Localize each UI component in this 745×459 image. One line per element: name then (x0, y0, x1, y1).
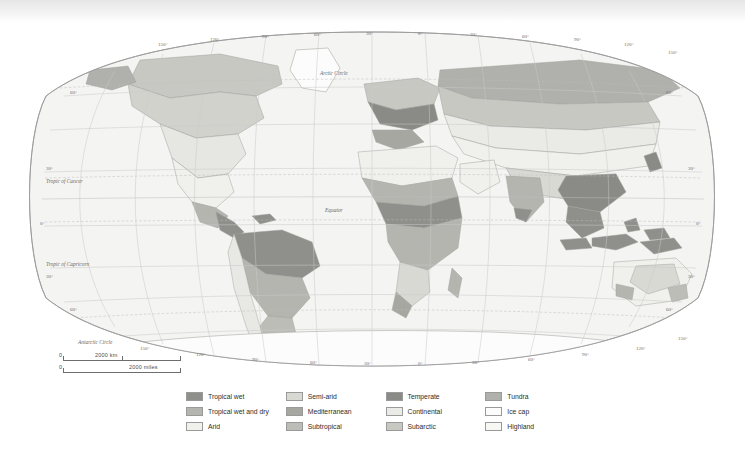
legend-label: Semi-arid (308, 392, 337, 401)
scale-ticks-miles (63, 368, 181, 378)
legend-item-temperate[interactable]: Temperate (386, 389, 482, 403)
lon-top-7: 60° (522, 34, 529, 39)
legend-swatch-icon (186, 422, 203, 431)
scale-tick-km-start (63, 356, 64, 361)
legend-swatch-icon (386, 407, 403, 416)
map-canvas: 150° 120° 90° 60° 30° 0° 30° 60° 90° 120… (20, 26, 725, 376)
legend-label: Highland (507, 422, 534, 431)
legend-swatch-icon (286, 392, 303, 401)
legend-item-ice-cap[interactable]: Ice cap (485, 404, 581, 418)
lat-right-3: 30° (688, 274, 695, 279)
lat-right-1: 30° (688, 166, 695, 171)
lon-bot-2: 90° (252, 357, 259, 362)
scale-miles-zero: 0 (59, 364, 62, 370)
scale-tick-mi-end (180, 368, 181, 373)
scale-km-value: 2000 km (95, 352, 118, 358)
legend-label: Tropical wet (208, 392, 244, 401)
climate-legend: Tropical wet Semi-arid Temperate Tundra … (186, 389, 581, 433)
lat-left-0: 60° (70, 90, 77, 95)
legend-swatch-icon (186, 392, 203, 401)
scale-bar: 0 2000 km 0 2000 miles (45, 352, 205, 382)
lat-left-4: 60° (70, 307, 77, 312)
scale-ticks-km (63, 356, 181, 366)
legend-item-mediterranean[interactable]: Mediterranean (286, 404, 382, 418)
lon-top-9: 120° (624, 42, 634, 47)
legend-swatch-icon (386, 422, 403, 431)
lon-top-6: 30° (470, 32, 477, 37)
legend-item-tropical-wet-and-dry[interactable]: Tropical wet and dry (186, 404, 282, 418)
antarctic-circle-label: Antarctic Circle (77, 339, 113, 345)
legend-item-semi-arid[interactable]: Semi-arid (286, 389, 382, 403)
legend-label: Mediterranean (308, 407, 352, 416)
lon-top-4: 30° (366, 31, 373, 36)
legend-swatch-icon (286, 407, 303, 416)
legend-label: Arid (208, 422, 220, 431)
legend-swatch-icon (485, 392, 502, 401)
climate-map-page: 150° 120° 90° 60° 30° 0° 30° 60° 90° 120… (0, 0, 745, 459)
legend-label: Temperate (408, 392, 440, 401)
lon-bot-0: 150° (140, 346, 150, 351)
legend-label: Ice cap (507, 407, 529, 416)
lon-top-8: 90° (574, 37, 581, 42)
scale-tick-mi-start (63, 368, 64, 373)
legend-item-arid[interactable]: Arid (186, 419, 282, 433)
legend-item-subtropical[interactable]: Subtropical (286, 419, 382, 433)
lat-left-3: 30° (46, 274, 53, 279)
scale-tick-km-end (180, 356, 181, 361)
legend-label: Tundra (507, 392, 528, 401)
legend-label: Continental (408, 407, 442, 416)
legend-swatch-icon (286, 422, 303, 431)
lon-bot-10: 150° (678, 336, 688, 341)
lon-bot-4: 30° (364, 361, 371, 366)
lat-right-4: 60° (666, 307, 673, 312)
legend-swatch-icon (485, 422, 502, 431)
lon-bot-9: 120° (636, 346, 646, 351)
legend-label: Tropical wet and dry (208, 407, 269, 416)
legend-item-subarctic[interactable]: Subarctic (386, 419, 482, 433)
legend-swatch-icon (386, 392, 403, 401)
lon-top-3: 60° (314, 32, 321, 37)
lon-top-10: 150° (668, 50, 678, 55)
equator-label: Equator (324, 207, 344, 213)
legend-swatch-icon (485, 407, 502, 416)
lon-bot-8: 90° (582, 352, 589, 357)
legend-item-tropical-wet[interactable]: Tropical wet (186, 389, 282, 403)
legend-label: Subarctic (408, 422, 436, 431)
lon-bot-3: 60° (310, 360, 317, 365)
legend-swatch-icon (186, 407, 203, 416)
scale-tick-km-mid (122, 356, 123, 361)
lon-top-1: 120° (210, 37, 220, 42)
lon-top-2: 90° (262, 34, 269, 39)
legend-label: Subtropical (308, 422, 342, 431)
lon-top-5: 0° (418, 31, 423, 36)
legend-item-highland[interactable]: Highland (485, 419, 581, 433)
scale-miles-value: 2000 miles (129, 364, 158, 370)
legend-item-continental[interactable]: Continental (386, 404, 482, 418)
tropic-of-cancer-label: Tropic of Cancer (46, 178, 84, 184)
world-climate-map: 150° 120° 90° 60° 30° 0° 30° 60° 90° 120… (20, 26, 725, 376)
lon-bot-7: 60° (528, 357, 535, 362)
arctic-circle-label: Arctic Circle (319, 70, 348, 76)
scale-km-zero: 0 (59, 352, 62, 358)
lat-left-1: 30° (46, 166, 53, 171)
lon-bot-6: 30° (472, 360, 479, 365)
lat-right-0: 60° (666, 90, 673, 95)
lon-top-0: 150° (158, 42, 168, 47)
tropic-of-capricorn-label: Tropic of Capricorn (46, 261, 90, 267)
legend-item-tundra[interactable]: Tundra (485, 389, 581, 403)
lat-right-2: 0° (696, 221, 701, 226)
lon-bot-5: 0° (418, 361, 423, 366)
lat-left-2: 0° (40, 221, 45, 226)
